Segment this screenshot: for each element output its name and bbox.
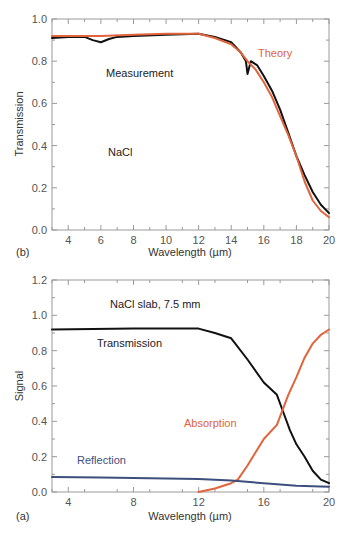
series-measurement-line	[52, 34, 329, 213]
y-tick-label: 0.0	[32, 486, 47, 498]
theory-annotation: Theory	[258, 47, 293, 59]
series-reflection-line	[52, 477, 329, 487]
y-tick-label: 0.6	[32, 380, 47, 392]
y-tick-label: 0.6	[32, 97, 47, 109]
x-tick-label: 4	[65, 496, 71, 508]
x-tick-label: 10	[160, 234, 172, 246]
panel-label-a: (a)	[16, 510, 29, 522]
panel-label-b: (b)	[16, 246, 29, 258]
x-tick-label: 14	[225, 234, 237, 246]
y-tick-label: 1.0	[32, 309, 47, 321]
measurement-annotation: Measurement	[106, 67, 173, 79]
y-tick-label: 1.0	[32, 13, 47, 25]
y-tick-label: 0.4	[32, 415, 47, 427]
y-tick-label: 0.0	[32, 224, 47, 236]
nacl-annotation: NaCl	[108, 146, 132, 158]
y-axis-title-a: Signal	[13, 371, 25, 402]
figure: 4681012141618200.00.20.40.60.81.0 Measur…	[0, 0, 349, 535]
y-axis-title-b: Transmission	[13, 92, 25, 157]
panel-b-transmission-chart: 4681012141618200.00.20.40.60.81.0 Measur…	[13, 13, 335, 258]
x-tick-label: 20	[323, 496, 335, 508]
x-tick-label: 18	[290, 234, 302, 246]
reflection-annotation: Reflection	[77, 454, 126, 466]
y-tick-label: 0.2	[32, 182, 47, 194]
x-tick-label: 8	[130, 234, 136, 246]
y-tick-label: 0.2	[32, 451, 47, 463]
data-series-a	[52, 329, 329, 492]
y-tick-label: 1.2	[32, 274, 47, 286]
series-theory-line	[52, 34, 329, 218]
slab-title-annotation: NaCl slab, 7.5 mm	[110, 298, 200, 310]
x-axis-title-a: Wavelength (µm)	[148, 510, 232, 522]
x-axis-title-b: Wavelength (µm)	[148, 246, 232, 258]
x-tick-label: 16	[258, 496, 270, 508]
x-tick-label: 12	[193, 234, 205, 246]
data-series-b	[52, 34, 329, 218]
x-tick-label: 4	[65, 234, 71, 246]
x-tick-label: 6	[98, 234, 104, 246]
panel-a-signal-chart: 481216200.00.20.40.60.81.01.2 NaCl slab,…	[13, 274, 335, 522]
x-tick-label: 12	[193, 496, 205, 508]
y-tick-label: 0.4	[32, 140, 47, 152]
y-tick-label: 0.8	[32, 345, 47, 357]
y-tick-label: 0.8	[32, 55, 47, 67]
absorption-annotation: Absorption	[184, 417, 237, 429]
x-tick-label: 20	[323, 234, 335, 246]
series-absorption-line	[199, 330, 329, 493]
transmission-annotation: Transmission	[97, 337, 162, 349]
x-tick-label: 8	[130, 496, 136, 508]
x-tick-label: 16	[258, 234, 270, 246]
